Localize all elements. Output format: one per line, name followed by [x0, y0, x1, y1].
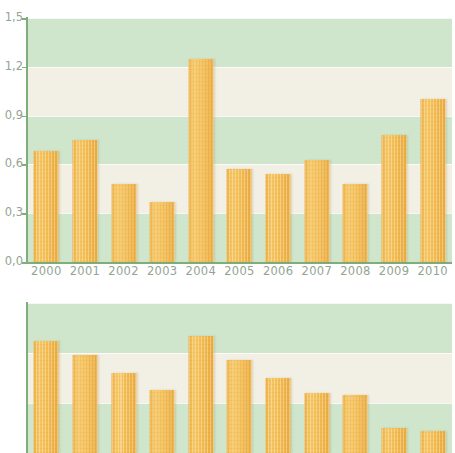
bar-2010 — [420, 431, 445, 453]
x-tick-label-2003: 2003 — [143, 266, 182, 278]
bar-slot — [27, 303, 66, 453]
bar-slot — [104, 18, 143, 262]
bar-slot — [220, 303, 259, 453]
bar-2008 — [343, 184, 368, 262]
bar-series-bottom — [27, 303, 452, 453]
bar-slot — [104, 303, 143, 453]
bar-slot — [259, 303, 298, 453]
x-tick-label-2010: 2010 — [413, 266, 452, 278]
bar-2007 — [304, 393, 329, 453]
x-tick-label-2007: 2007 — [297, 266, 336, 278]
bar-slot — [143, 18, 182, 262]
bar-2004 — [188, 336, 213, 453]
bar-slot — [182, 18, 221, 262]
y-tick-mark — [22, 18, 27, 20]
bar-slot — [182, 303, 221, 453]
bar-2001 — [72, 355, 97, 453]
bar-2006 — [266, 378, 291, 453]
bar-2010 — [420, 99, 445, 262]
bar-2000 — [34, 151, 59, 262]
bar-chart-figure: 0,00,30,60,91,21,5 200020012002200320042… — [0, 0, 455, 453]
bar-slot — [259, 18, 298, 262]
bar-slot — [375, 18, 414, 262]
x-tick-label-2001: 2001 — [66, 266, 105, 278]
x-tick-label-2008: 2008 — [336, 266, 375, 278]
bar-2004 — [188, 59, 213, 262]
y-tick-label: 1,2 — [0, 61, 23, 73]
y-tick-mark — [22, 67, 27, 69]
chart-bottom: 6090120150 — [0, 290, 455, 453]
x-tick-labels-top: 2000200120022003200420052006200720082009… — [27, 266, 452, 286]
bar-2006 — [266, 174, 291, 262]
y-tick-label: 1,5 — [0, 12, 23, 24]
bar-slot — [297, 18, 336, 262]
bar-2003 — [150, 202, 175, 262]
bar-slot — [297, 303, 336, 453]
bar-2001 — [72, 140, 97, 262]
bar-slot — [27, 18, 66, 262]
bar-2005 — [227, 169, 252, 262]
bar-slot — [375, 303, 414, 453]
bar-2003 — [150, 390, 175, 453]
y-tick-label: 0,9 — [0, 110, 23, 122]
y-tick-mark — [22, 164, 27, 166]
bar-slot — [220, 18, 259, 262]
bar-slot — [413, 18, 452, 262]
bar-slot — [66, 303, 105, 453]
bar-2005 — [227, 360, 252, 453]
chart-top: 0,00,30,60,91,21,5 200020012002200320042… — [0, 0, 455, 290]
y-tick-mark — [22, 116, 27, 118]
bar-2002 — [111, 373, 136, 453]
y-tick-label: 0,3 — [0, 207, 23, 219]
y-tick-mark — [22, 262, 27, 264]
bar-slot — [336, 18, 375, 262]
bar-slot — [66, 18, 105, 262]
bar-2009 — [382, 135, 407, 262]
y-tick-label: 0,6 — [0, 158, 23, 170]
x-tick-label-2004: 2004 — [182, 266, 221, 278]
x-tick-label-2009: 2009 — [375, 266, 414, 278]
x-tick-label-2005: 2005 — [220, 266, 259, 278]
bar-2007 — [304, 160, 329, 262]
x-tick-label-2000: 2000 — [27, 266, 66, 278]
x-tick-label-2006: 2006 — [259, 266, 298, 278]
bar-2008 — [343, 395, 368, 453]
y-tick-mark — [22, 213, 27, 215]
bar-series-top — [27, 18, 452, 262]
bar-slot — [413, 303, 452, 453]
bar-slot — [336, 303, 375, 453]
bar-2002 — [111, 184, 136, 262]
y-tick-label: 0,0 — [0, 256, 23, 268]
x-tick-label-2002: 2002 — [104, 266, 143, 278]
bar-2000 — [34, 341, 59, 453]
bar-2009 — [382, 428, 407, 453]
bar-slot — [143, 303, 182, 453]
